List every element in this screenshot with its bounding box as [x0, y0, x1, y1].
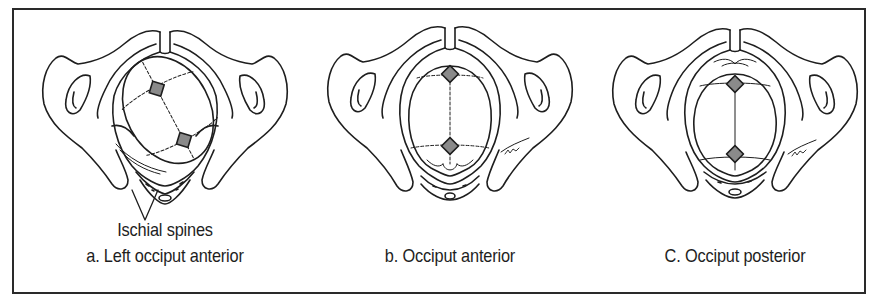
pelvis-illustration-c — [590, 0, 879, 230]
caption-occiput-posterior: C. Occiput posterior — [610, 245, 859, 267]
panel-occiput-posterior: C. Occiput posterior — [590, 0, 879, 306]
pelvis-illustration-b — [305, 0, 595, 230]
caption-occiput-anterior: b. Occiput anterior — [325, 245, 574, 267]
annotation-ischial-spines: Ischial spines — [40, 219, 289, 241]
caption-left-occiput-anterior: a. Left occiput anterior — [40, 245, 289, 267]
pelvis-illustration-a — [20, 0, 310, 230]
panel-occiput-anterior: b. Occiput anterior — [305, 0, 595, 306]
panel-left-occiput-anterior: Ischial spines a. Left occiput anterior — [20, 0, 310, 306]
